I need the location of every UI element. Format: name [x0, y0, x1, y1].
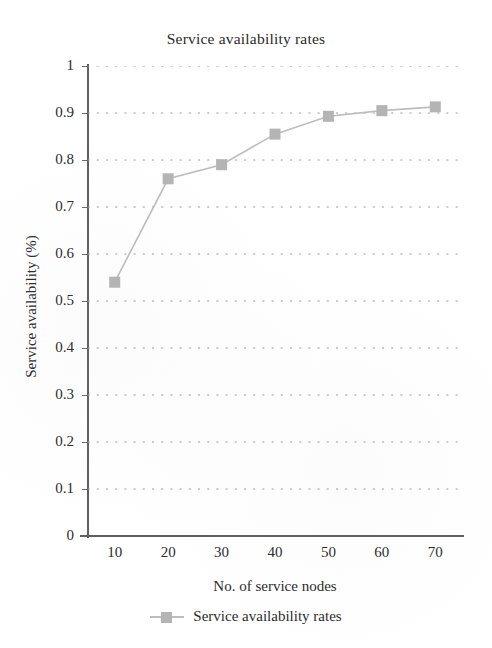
data-point-marker: 20: 0.76: [163, 173, 174, 184]
x-tick-label: 30: [200, 545, 244, 560]
x-tick-label: 50: [306, 545, 350, 560]
y-tick-label: 0.1: [16, 481, 74, 496]
data-point-marker: 40: 0.855: [270, 129, 281, 140]
y-tick-label: 0.3: [16, 387, 74, 402]
chart-legend: Service availability rates: [0, 608, 492, 625]
data-point-marker: 50: 0.893: [323, 111, 334, 122]
legend-square-marker-icon: [150, 610, 184, 623]
chart-title: Service availability rates: [0, 30, 492, 48]
y-tick-label: 0.2: [16, 434, 74, 449]
x-tick-label: 10: [93, 545, 137, 560]
data-point-marker: 30: 0.79: [216, 159, 227, 170]
y-tick-label: 0.7: [16, 199, 74, 214]
x-tick-label: 40: [253, 545, 297, 560]
y-tick-label: 0.8: [16, 152, 74, 167]
y-tick-label: 0.4: [16, 340, 74, 355]
y-tick-label: 1: [16, 58, 74, 73]
chart-figure: Service availability rates Service avail…: [0, 0, 492, 648]
plot-area: 10: 0.5420: 0.7630: 0.7940: 0.85550: 0.8…: [88, 66, 462, 536]
x-tick-label: 60: [360, 545, 404, 560]
x-tick-label: 20: [146, 545, 190, 560]
legend-entry-service-availability-rates: Service availability rates: [150, 608, 341, 625]
y-tick-label: 0: [16, 528, 74, 543]
y-tick-label: 0.5: [16, 293, 74, 308]
data-point-marker: 60: 0.905: [376, 105, 387, 116]
data-series-service-availability-rates: 10: 0.5420: 0.7630: 0.7940: 0.85550: 0.8…: [109, 101, 441, 287]
data-point-marker: 10: 0.54: [109, 277, 120, 288]
plot-svg: 10: 0.5420: 0.7630: 0.7940: 0.85550: 0.8…: [88, 66, 462, 536]
legend-label: Service availability rates: [193, 608, 341, 625]
y-tick-label: 0.9: [16, 105, 74, 120]
x-axis-title: No. of service nodes: [88, 578, 462, 595]
y-tick-label: 0.6: [16, 246, 74, 261]
x-tick-label: 70: [413, 545, 457, 560]
data-point-marker: 70: 0.913: [430, 101, 441, 112]
series-markers: 10: 0.5420: 0.7630: 0.7940: 0.85550: 0.8…: [109, 101, 441, 287]
